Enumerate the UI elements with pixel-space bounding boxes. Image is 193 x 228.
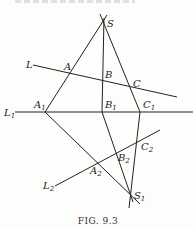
label-S1: S1: [134, 190, 145, 203]
ray-S-C1: [100, 14, 140, 112]
label-C1: C1: [143, 99, 155, 112]
label-A: A: [63, 61, 71, 72]
perspectivity-diagram: S L A B C L1 A1 B1 C1 C2 B2 A2 L2 S1 FIG…: [0, 0, 193, 228]
label-S: S: [107, 18, 114, 29]
line-L2: [55, 130, 160, 186]
figure-caption: FIG. 9.3: [78, 216, 119, 226]
label-A2: A2: [89, 165, 102, 178]
label-A1: A1: [33, 99, 46, 112]
ray-S-B1: [102, 18, 104, 112]
label-C: C: [133, 78, 141, 89]
label-B1: B1: [104, 99, 117, 112]
label-C2: C2: [141, 141, 154, 154]
ray-S-A1: [45, 15, 107, 112]
label-L: L: [25, 59, 33, 70]
label-B2: B2: [117, 152, 130, 165]
label-B: B: [104, 69, 112, 80]
label-L2: L2: [42, 180, 55, 193]
label-L1: L1: [3, 107, 15, 120]
figure-9-3: S L A B C L1 A1 B1 C1 C2 B2 A2 L2 S1 FIG…: [0, 0, 193, 228]
